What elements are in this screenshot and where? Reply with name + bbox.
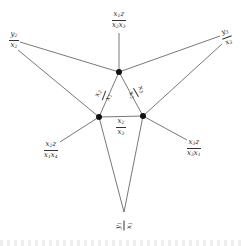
label-denominator: x1 xyxy=(126,222,134,229)
label-outer-top: x1zx2x3 xyxy=(112,11,126,30)
label-inner-bottom: x2x3 xyxy=(116,118,126,137)
label-denominator: x2x3 xyxy=(112,22,126,30)
label-outer-upper-left: y2x2 xyxy=(9,31,19,50)
label-outer-lower-right: x3zx3x1 xyxy=(187,139,201,158)
label-denominator: x3 xyxy=(118,129,125,137)
cropped-caption-strip xyxy=(0,240,242,246)
outer-edge-left-outer-upper-left xyxy=(18,50,99,117)
label-denominator: x1x4 xyxy=(44,152,58,160)
label-denominator: x2 xyxy=(126,90,136,100)
label-numerator: x1z xyxy=(114,11,125,19)
label-numerator: x3z xyxy=(189,139,200,147)
outer-edge-top-outer-upper-right xyxy=(119,36,220,72)
vertex-left xyxy=(96,114,102,120)
label-numerator: x2z xyxy=(46,141,57,149)
label-numerator: y1 xyxy=(115,222,123,229)
label-numerator: y2 xyxy=(11,31,18,39)
label-outer-lower-left: x2zx1x4 xyxy=(44,141,58,160)
outer-edge-right-outer-bottom xyxy=(124,116,143,212)
label-numerator: x2 xyxy=(118,118,125,126)
outer-edge-right-outer-upper-right xyxy=(143,44,222,116)
outer-edge-left-outer-lower-left xyxy=(60,117,99,142)
outer-edge-right-outer-lower-right xyxy=(143,116,187,140)
label-denominator: x2 xyxy=(11,42,18,50)
label-outer-bottom: y1x1 xyxy=(115,220,134,230)
label-denominator: x3 xyxy=(224,37,233,47)
vertex-top xyxy=(116,69,122,75)
label-denominator: x3x1 xyxy=(187,150,201,158)
outer-edge-top-outer-upper-left xyxy=(20,42,119,72)
vertex-right xyxy=(140,113,146,119)
